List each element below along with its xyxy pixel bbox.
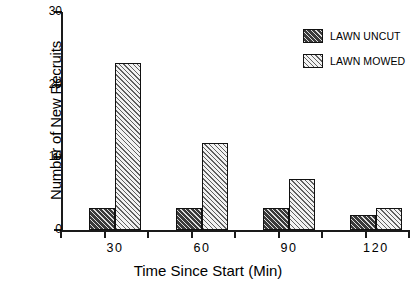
x-axis-title: Time Since Start (Min)	[0, 262, 416, 279]
y-axis-tick-label: 10	[34, 150, 62, 162]
legend-item-label: LAWN UNCUT	[330, 30, 401, 42]
x-axis-tick-label: 120	[346, 241, 406, 255]
x-axis-tick	[60, 231, 62, 238]
x-axis-tick	[191, 231, 193, 238]
legend-swatch-icon	[303, 54, 323, 68]
bar-lawn-uncut-120	[350, 215, 376, 230]
legend-item-label: LAWN MOWED	[330, 55, 405, 67]
legend-item: LAWN MOWED	[303, 52, 405, 69]
bar-lawn-uncut-60	[176, 208, 202, 230]
x-axis-tick	[234, 231, 236, 238]
x-axis-tick	[408, 231, 410, 238]
chart-legend: LAWN UNCUTLAWN MOWED	[303, 27, 405, 77]
x-axis-tick	[147, 231, 149, 238]
legend-item: LAWN UNCUT	[303, 27, 405, 44]
y-axis-tick-label: 30	[34, 5, 62, 17]
legend-swatch-icon	[303, 29, 323, 43]
bar-chart: Number of New Recruits 0102030 306090120…	[0, 0, 416, 295]
x-axis-tick	[278, 231, 280, 238]
x-axis-tick-label: 90	[259, 241, 319, 255]
x-axis-tick	[104, 231, 106, 238]
bar-lawn-mowed-120	[376, 208, 402, 230]
y-axis-tick-label: 20	[34, 78, 62, 90]
x-axis-tick-label: 30	[85, 241, 145, 255]
bar-lawn-uncut-90	[263, 208, 289, 230]
x-axis-tick-label: 60	[172, 241, 232, 255]
bar-lawn-mowed-90	[289, 179, 315, 230]
x-axis-tick	[365, 231, 367, 238]
x-axis-tick	[321, 231, 323, 238]
bar-lawn-uncut-30	[89, 208, 115, 230]
y-axis-tick-label: 0	[34, 223, 62, 235]
bar-lawn-mowed-60	[202, 143, 228, 230]
bar-lawn-mowed-30	[115, 63, 141, 230]
